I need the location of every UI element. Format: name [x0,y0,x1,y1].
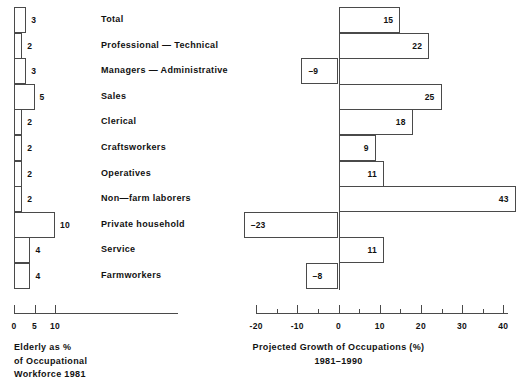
right-bar-value-label: 25 [339,93,435,102]
left-bar-value-label: 3 [31,16,36,25]
dual-panel-bar-chart: 323522221044 1522–9251891143–2311–8 Tota… [0,0,519,383]
left-bar-managers-administrative [14,58,26,84]
right-panel-major-tick [339,305,340,313]
right-panel-tick-label: -20 [250,322,263,331]
left-panel-major-tick [35,305,36,313]
left-caption-line-2: Workforce 1981 [14,368,87,382]
category-label-craftsworkers: Craftsworkers [101,143,166,152]
right-panel-minor-tick [483,309,484,313]
right-bar-value-label: 43 [339,195,509,204]
right-panel-major-tick [503,305,504,313]
right-bar-value-label: 18 [339,118,406,127]
left-bar-non-farm-laborers [14,186,22,212]
left-bar-professional-technical [14,33,22,59]
left-bar-operatives [14,161,22,187]
right-panel-major-tick [462,305,463,313]
right-panel-tick-label: 40 [498,322,508,331]
left-bar-service [14,237,30,263]
left-bar-value-label: 2 [27,195,32,204]
left-bar-value-label: 5 [40,93,45,102]
category-label-farmworkers: Farmworkers [101,271,161,280]
right-bar-value-label: –8 [313,272,323,281]
right-panel-tick-label: 20 [416,322,426,331]
left-caption-line-0: Elderly as % [14,341,87,355]
right-panel-tick-label: -10 [291,322,304,331]
right-panel-axis-line [256,313,508,314]
right-panel-minor-tick [359,309,360,313]
right-panel-minor-tick [318,309,319,313]
category-label-managers-administrative: Managers — Administrative [101,66,228,75]
right-panel-major-tick [256,305,257,313]
right-panel-minor-tick [442,309,443,313]
left-bar-value-label: 4 [35,272,40,281]
right-panel-major-tick [421,305,422,313]
left-panel-tick-label: 10 [50,322,60,331]
category-label-private-household: Private household [101,220,185,229]
right-bar-value-label: 22 [339,42,423,51]
category-label-non-farm-laborers: Non—farm laborers [101,194,191,203]
right-bar-value-label: –9 [308,67,318,76]
left-panel-caption: Elderly as %of OccupationalWorkforce 198… [14,341,87,382]
left-bar-farmworkers [14,263,30,289]
right-bar-managers-administrative [301,58,338,84]
left-bar-value-label: 4 [35,246,40,255]
category-label-clerical: Clerical [101,117,136,126]
right-panel-tick-label: 10 [375,322,385,331]
right-panel-tick-label: 30 [457,322,467,331]
left-panel-major-tick [55,305,56,313]
left-bar-value-label: 2 [27,118,32,127]
right-panel-major-tick [380,305,381,313]
left-bar-value-label: 2 [27,170,32,179]
right-bar-value-label: 15 [339,16,394,25]
left-panel-tick-label: 0 [11,322,16,331]
left-bar-total [14,7,26,33]
left-bar-value-label: 10 [60,221,70,230]
category-label-total: Total [101,15,124,24]
right-panel-major-tick [297,305,298,313]
left-panel-major-tick [14,305,15,313]
left-caption-line-1: of Occupational [14,355,87,369]
right-panel-tick-label: 0 [336,322,341,331]
left-bar-craftsworkers [14,135,22,161]
left-bar-private-household [14,212,55,238]
right-bar-value-label: 11 [339,170,377,179]
right-bar-value-label: 11 [339,246,377,255]
right-panel-minor-tick [400,309,401,313]
left-bar-clerical [14,109,22,135]
left-bar-value-label: 3 [31,67,36,76]
left-bar-value-label: 2 [27,144,32,153]
category-label-service: Service [101,245,135,254]
right-panel-caption: Projected Growth of Occupations (%)1981–… [253,341,425,368]
right-caption-line-1: 1981–1990 [253,355,425,369]
category-label-professional-technical: Professional — Technical [101,41,218,50]
left-bar-sales [14,84,35,110]
left-panel-tick-label: 5 [32,322,37,331]
right-bar-value-label: –23 [251,221,266,230]
right-caption-line-0: Projected Growth of Occupations (%) [253,341,425,355]
right-panel-minor-tick [277,309,278,313]
right-bar-value-label: 9 [339,144,369,153]
category-label-sales: Sales [101,92,126,101]
category-label-operatives: Operatives [101,169,151,178]
left-bar-value-label: 2 [27,42,32,51]
left-panel-axis-line [14,313,178,314]
